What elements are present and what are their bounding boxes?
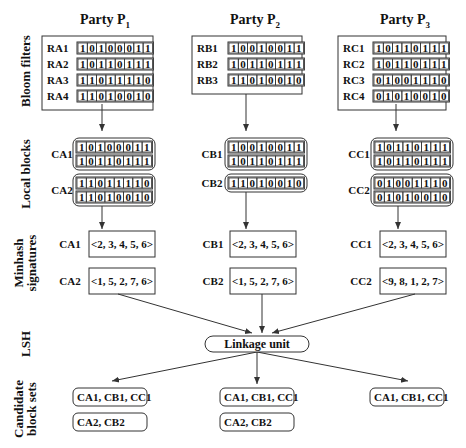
bit-value: 1 xyxy=(396,141,402,153)
bit-value: 1 xyxy=(259,155,265,167)
bit-value: 1 xyxy=(287,74,293,86)
bit-value: 0 xyxy=(268,58,274,70)
arrow-linkage-to-p1 xyxy=(112,352,257,381)
bit-value: 0 xyxy=(442,177,448,189)
bit-value: 1 xyxy=(433,191,439,203)
bit-value: 0 xyxy=(250,141,256,153)
local-block-bits: 01001110 xyxy=(374,177,450,189)
bit-value: 1 xyxy=(80,90,86,102)
bloom-filter-bits: 10110111 xyxy=(373,58,449,70)
bit-value: 0 xyxy=(117,42,123,54)
bit-value: 0 xyxy=(386,141,392,153)
bloom-filter-id: RB2 xyxy=(197,58,218,70)
minhash-id: CB2 xyxy=(203,275,224,287)
bit-value: 1 xyxy=(231,155,237,167)
local-block-id: CA2 xyxy=(51,184,73,196)
bit-value: 0 xyxy=(145,74,151,86)
candidate-set-label: CA2, CB2 xyxy=(77,416,125,428)
bit-value: 1 xyxy=(296,141,302,153)
bit-value: 0 xyxy=(88,155,94,167)
bit-value: 1 xyxy=(136,74,142,86)
bit-value: 0 xyxy=(377,177,383,189)
bit-value: 0 xyxy=(296,74,302,86)
bit-value: 0 xyxy=(422,90,428,102)
bit-value: 1 xyxy=(135,177,141,189)
bit-value: 0 xyxy=(441,74,447,86)
bloom-filter-bits: 01001110 xyxy=(373,74,449,86)
candidate-set-label: CA1, CB1, CC1 xyxy=(224,391,299,403)
bit-value: 1 xyxy=(385,74,391,86)
bit-value: 1 xyxy=(422,58,428,70)
bit-value: 1 xyxy=(432,90,438,102)
bloom-filter-id: RB3 xyxy=(197,74,218,86)
local-block-bits: 11010010 xyxy=(76,191,152,203)
party-header-p1: Party P1 xyxy=(80,12,130,30)
local-block-id: CC1 xyxy=(348,148,369,160)
bit-value: 0 xyxy=(404,74,410,86)
bit-value: 1 xyxy=(136,58,142,70)
bit-value: 1 xyxy=(432,74,438,86)
local-block-bits: 11011110 xyxy=(76,177,152,189)
bit-value: 0 xyxy=(268,155,274,167)
local-block-id: CC2 xyxy=(348,184,370,196)
bit-value: 1 xyxy=(99,42,105,54)
bit-value: 1 xyxy=(89,74,95,86)
bloom-filter-id: RA2 xyxy=(47,58,69,70)
local-block-bits: 10100011 xyxy=(76,141,152,153)
bit-value: 0 xyxy=(413,58,419,70)
bit-value: 0 xyxy=(144,177,150,189)
bloom-filter-bits: 01010010 xyxy=(373,90,449,102)
bit-value: 0 xyxy=(116,191,122,203)
bloom-filter-bits: 11010010 xyxy=(77,90,153,102)
bit-value: 0 xyxy=(277,42,283,54)
bit-value: 1 xyxy=(287,155,293,167)
local-block-bits: 10010011 xyxy=(228,141,304,153)
bit-value: 1 xyxy=(80,58,86,70)
stage-label-lsh: LSH xyxy=(18,331,33,357)
bit-value: 0 xyxy=(89,58,95,70)
bit-value: 0 xyxy=(99,90,105,102)
bit-value: 1 xyxy=(296,58,302,70)
minhash-signature: <9, 8, 1, 2, 7> xyxy=(382,275,444,287)
bloom-filter-bits: 11010010 xyxy=(228,74,304,86)
bit-value: 0 xyxy=(376,90,382,102)
bit-value: 1 xyxy=(296,155,302,167)
bit-value: 1 xyxy=(386,177,392,189)
minhash-id: CB1 xyxy=(203,238,224,250)
bit-value: 0 xyxy=(240,141,246,153)
bit-value: 0 xyxy=(125,141,131,153)
bit-value: 0 xyxy=(296,177,302,189)
local-block-bits: 10110111 xyxy=(76,155,152,167)
bit-value: 1 xyxy=(88,177,94,189)
bit-value: 1 xyxy=(422,74,428,86)
bit-value: 0 xyxy=(116,141,122,153)
bit-value: 1 xyxy=(396,155,402,167)
local-block-layer: CA11010001110110111CA21101111011010010CB… xyxy=(51,138,453,206)
bit-value: 1 xyxy=(136,90,142,102)
linkage-unit: Linkage unit xyxy=(205,336,309,352)
bit-value: 1 xyxy=(79,177,85,189)
bit-value: 0 xyxy=(98,191,104,203)
bit-value: 0 xyxy=(396,177,402,189)
bit-value: 1 xyxy=(277,155,283,167)
local-block-id: CB2 xyxy=(202,177,223,189)
local-block-bits: 10110111 xyxy=(374,141,450,153)
bit-value: 0 xyxy=(117,90,123,102)
bit-value: 1 xyxy=(433,177,439,189)
bit-value: 0 xyxy=(268,177,274,189)
bit-value: 1 xyxy=(376,42,382,54)
bit-value: 1 xyxy=(116,177,122,189)
bit-value: 1 xyxy=(422,42,428,54)
bit-value: 1 xyxy=(135,155,141,167)
local-block-bits: 01010010 xyxy=(374,191,450,203)
bit-value: 1 xyxy=(79,191,85,203)
local-block-bits: 10110111 xyxy=(374,155,450,167)
bit-value: 1 xyxy=(287,177,293,189)
bloom-filter-id: RC4 xyxy=(343,90,365,102)
bit-value: 0 xyxy=(99,74,105,86)
candidate-set-label: CA2, CB2 xyxy=(224,416,272,428)
stage-label-local-blocks: Local blocks xyxy=(18,139,33,209)
bit-value: 1 xyxy=(125,177,131,189)
bit-value: 1 xyxy=(377,141,383,153)
bit-value: 1 xyxy=(108,58,114,70)
